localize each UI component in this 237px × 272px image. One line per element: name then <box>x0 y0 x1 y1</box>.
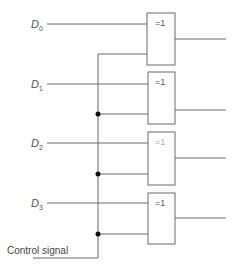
gate-symbol-0: =1 <box>155 18 165 28</box>
xor-gate-2: D2 =1 <box>31 132 226 185</box>
input-label-d3: D3 <box>31 197 43 211</box>
junction-dot-1 <box>96 112 101 117</box>
xor-controlled-inverter-diagram: Control signal D0 =1 D1 =1 D2 =1 D3 =1 <box>0 0 237 272</box>
input-label-d0: D0 <box>31 18 43 32</box>
gate-symbol-3: =1 <box>155 198 165 208</box>
xor-gate-1: D1 =1 <box>31 72 226 124</box>
control-signal-label: Control signal <box>7 245 68 256</box>
xor-gate-0: D0 =1 <box>31 13 226 65</box>
gate-symbol-1: =1 <box>155 77 165 87</box>
input-label-d1: D1 <box>31 78 43 92</box>
gate-symbol-2: =1 <box>155 137 165 147</box>
xor-gate-3: D3 =1 <box>31 193 226 244</box>
junction-dot-3 <box>96 232 101 237</box>
input-label-d2: D2 <box>31 137 43 151</box>
junction-dot-2 <box>96 172 101 177</box>
